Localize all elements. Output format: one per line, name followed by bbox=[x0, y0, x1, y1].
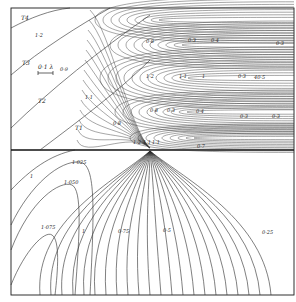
contour-line bbox=[180, 73, 294, 83]
contour-label: 0·7 bbox=[197, 143, 206, 149]
contour-line bbox=[186, 135, 294, 141]
contour-label: 0·3 bbox=[240, 113, 248, 119]
contour-label: 1·1 bbox=[143, 139, 151, 145]
contour-figure: T4 T3 T2 T1 0·1 λ 1·2 0·9 1·1 0·8 0·8 0·… bbox=[0, 0, 296, 302]
contour-line bbox=[150, 151, 271, 295]
contour-line bbox=[84, 151, 150, 295]
contour-line bbox=[90, 10, 150, 148]
contour-label: 0·4 bbox=[196, 108, 204, 114]
contour-line bbox=[127, 7, 294, 33]
contour-label: 1·2 bbox=[35, 32, 43, 38]
contour-label: 40·5 bbox=[253, 74, 265, 80]
label-t4: T4 bbox=[21, 14, 29, 21]
contour-line bbox=[11, 184, 79, 295]
label-t2: T2 bbox=[38, 97, 46, 104]
contour-line bbox=[108, 49, 294, 106]
label-t3: T3 bbox=[22, 59, 30, 66]
lower-contours bbox=[11, 150, 271, 295]
contour-label: 1 bbox=[30, 173, 33, 179]
scale-bar-label: 0·1 λ bbox=[38, 63, 53, 70]
plot-frame bbox=[11, 8, 294, 295]
contour-line bbox=[150, 151, 249, 295]
contour-line bbox=[105, 151, 150, 295]
contour-label: 0·4 bbox=[211, 37, 219, 43]
contour-label: 0·3 bbox=[272, 113, 280, 119]
contour-label: 1·075 bbox=[41, 224, 55, 230]
contour-label: 0·8 bbox=[113, 120, 121, 126]
contour-label: 1·1 bbox=[152, 139, 160, 145]
label-t1: T1 bbox=[75, 124, 83, 131]
contour-label: 0·3 bbox=[188, 37, 196, 43]
contour-line bbox=[143, 12, 294, 28]
contour-line bbox=[150, 151, 216, 295]
contour-line bbox=[150, 151, 205, 295]
contour-label: 1 bbox=[202, 73, 205, 79]
contour-label: 0·3 bbox=[167, 107, 175, 113]
contour-line bbox=[150, 151, 260, 295]
contour-label: 0·8 bbox=[150, 107, 158, 113]
contour-line bbox=[150, 151, 161, 295]
contour-label: 1·050 bbox=[64, 179, 79, 185]
t4-line bbox=[11, 8, 70, 28]
contour-label: 1·1 bbox=[85, 94, 93, 100]
contour-line bbox=[88, 30, 150, 148]
contour-label: 0·3 bbox=[276, 40, 284, 46]
contour-label: 0·75 bbox=[118, 228, 129, 234]
contour-line bbox=[126, 26, 294, 64]
scale-bar bbox=[38, 71, 53, 75]
contour-line bbox=[155, 101, 294, 123]
contour-line bbox=[154, 128, 294, 147]
contour-line bbox=[172, 70, 294, 86]
contour-label: 0·25 bbox=[262, 229, 273, 235]
contour-label: 0·8 bbox=[146, 38, 154, 44]
contour-line bbox=[119, 4, 294, 35]
contour-label: 0·5 bbox=[163, 227, 171, 233]
contour-label: 1·1 bbox=[179, 73, 187, 79]
contour-label: 1·025 bbox=[72, 159, 86, 165]
contour-line bbox=[147, 151, 150, 295]
contour-label: 1·2 bbox=[133, 139, 141, 145]
contour-line bbox=[194, 136, 294, 139]
contour-label: 1 bbox=[82, 228, 85, 234]
contour-line bbox=[132, 57, 294, 99]
contour-label: 0·3 bbox=[238, 73, 246, 79]
contour-label: 0·9 bbox=[60, 66, 69, 72]
contour-line bbox=[148, 62, 294, 93]
contour-label: 1·2 bbox=[146, 73, 154, 79]
contour-line bbox=[150, 151, 227, 295]
